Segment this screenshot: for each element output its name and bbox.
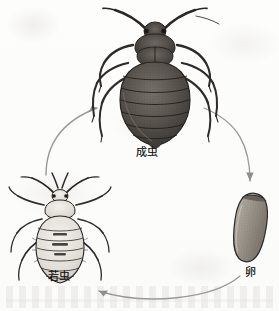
egg-body	[229, 191, 270, 264]
stage-label-adult: 成虫	[136, 147, 159, 159]
figure-canvas: 成虫 若虫 卵	[0, 0, 279, 311]
stage-label-nymph: 若虫	[48, 271, 71, 283]
stage-label-egg: 卵	[245, 267, 256, 279]
